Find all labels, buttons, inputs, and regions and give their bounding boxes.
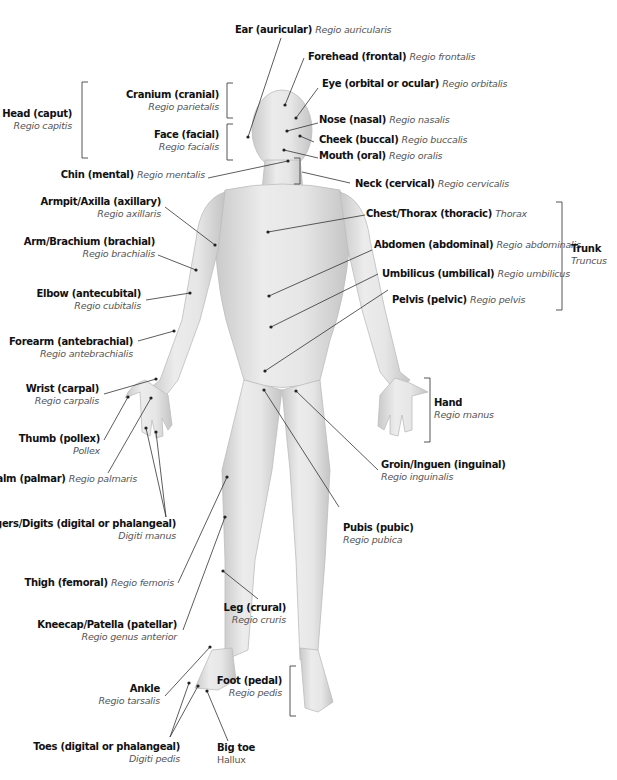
label-leg: Leg (crural) Regio cruris — [224, 602, 286, 626]
label-forearm: Forearm (antebrachial) Regio antebrachia… — [9, 336, 133, 360]
label-nose: Nose (nasal) Regio nasalis — [319, 114, 449, 126]
label-cranium: Cranium (cranial) Regio parietalis — [126, 89, 219, 113]
label-eye: Eye (orbital or ocular) Regio orbitalis — [322, 78, 507, 90]
label-wrist: Wrist (carpal) Regio carpalis — [26, 383, 99, 407]
label-arm: Arm/Brachium (brachial) Regio brachialis — [24, 236, 155, 260]
head-bracket — [82, 82, 88, 158]
label-armpit: Armpit/Axilla (axillary) Regio axillaris — [41, 196, 161, 220]
label-groin: Groin/Inguen (inguinal) Regio inguinalis — [381, 459, 506, 483]
label-elbow: Elbow (antecubital) Regio cubitalis — [37, 288, 141, 312]
label-head: Head (caput) Regio capitis — [2, 108, 72, 132]
label-palm: Palm (palmar) Regio palmaris — [0, 473, 137, 485]
label-foot: Foot (pedal) Regio pedis — [217, 675, 282, 699]
label-pubis: Pubis (pubic) Regio pubica — [343, 522, 414, 546]
label-mouth: Mouth (oral) Regio oralis — [319, 150, 442, 162]
label-forehead: Forehead (frontal) Regio frontalis — [308, 51, 475, 63]
label-big-toe: Big toe Hallux — [217, 742, 255, 766]
label-chest: Chest/Thorax (thoracic) Thorax — [366, 208, 527, 220]
label-hand: Hand Regio manus — [434, 397, 494, 421]
label-neck: Neck (cervical) Regio cervicalis — [355, 178, 509, 190]
label-thigh: Thigh (femoral) Regio femoris — [24, 577, 174, 589]
anatomy-diagram: Ear (auricular) Regio auricularis Forehe… — [0, 0, 617, 780]
label-umbilicus: Umbilicus (umbilical) Regio umbilicus — [382, 268, 570, 280]
label-thumb: Thumb (pollex) Pollex — [19, 433, 100, 457]
label-cheek: Cheek (buccal) Regio buccalis — [319, 134, 467, 146]
label-toes: Toes (digital or phalangeal) Digiti pedi… — [33, 741, 180, 765]
label-trunk: Trunk Truncus — [571, 243, 607, 267]
label-face: Face (facial) Regio facialis — [154, 129, 219, 153]
face-bracket — [227, 124, 233, 160]
foot-bracket — [290, 666, 296, 716]
label-ankle: Ankle Regio tarsalis — [98, 683, 160, 707]
hand-bracket — [424, 378, 430, 442]
label-fingers: Fingers/Digits (digital or phalangeal) D… — [0, 518, 176, 542]
cranium-bracket — [227, 83, 233, 118]
label-pelvis: Pelvis (pelvic) Regio pelvis — [392, 294, 525, 306]
label-abdomen: Abdomen (abdominal) Regio abdominalis — [374, 239, 581, 251]
label-ear: Ear (auricular) Regio auricularis — [235, 24, 391, 36]
label-kneecap: Kneecap/Patella (patellar) Regio genus a… — [37, 619, 177, 643]
label-chin: Chin (mental) Regio mentalis — [61, 169, 205, 181]
trunk-bracket — [556, 202, 562, 310]
